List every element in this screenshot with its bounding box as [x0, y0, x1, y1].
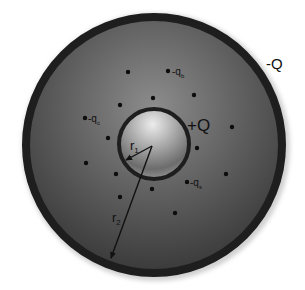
charge-dot [118, 103, 122, 107]
charge-dot [192, 93, 196, 97]
charge-dot [118, 195, 122, 199]
charge-dot [126, 70, 130, 74]
charge-dot [195, 146, 199, 150]
outer-charge-label: -Q [266, 55, 283, 72]
charge-dot [151, 96, 155, 100]
charge-dot [166, 69, 170, 73]
charge-dot [83, 116, 87, 120]
charged-spheres-diagram: r1 r2 +Q -Q -qb -qc -qs [0, 0, 305, 290]
charge-dot [173, 211, 177, 215]
charge-dot [114, 172, 118, 176]
charge-dot [150, 187, 154, 191]
charge-dot [224, 172, 228, 176]
inner-charge-label: +Q [187, 116, 210, 135]
charge-dot [84, 161, 88, 165]
charge-dot [185, 180, 189, 184]
charge-dot [230, 125, 234, 129]
charge-dot [106, 136, 110, 140]
